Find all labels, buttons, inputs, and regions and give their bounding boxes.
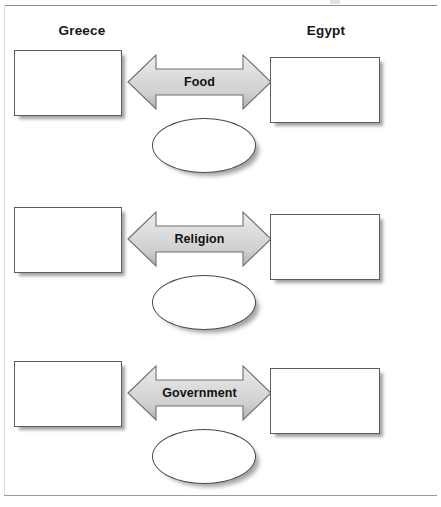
page-rule-top bbox=[4, 5, 437, 6]
answer-ellipse-shared[interactable] bbox=[152, 275, 256, 330]
page-rule-bottom bbox=[4, 495, 437, 496]
comparison-row: Religion bbox=[0, 201, 441, 331]
column-heading-greece: Greece bbox=[14, 23, 150, 38]
answer-box-greece[interactable] bbox=[14, 50, 122, 116]
double-arrow-icon bbox=[127, 363, 272, 423]
column-heading-egypt: Egypt bbox=[268, 23, 384, 38]
comparison-row: Government bbox=[0, 355, 441, 485]
double-arrow-icon bbox=[127, 52, 272, 112]
worksheet-page: Greece Egypt Food bbox=[0, 0, 441, 507]
comparison-row: Food bbox=[0, 44, 441, 174]
answer-box-egypt[interactable] bbox=[270, 57, 380, 123]
answer-box-greece[interactable] bbox=[14, 207, 122, 273]
answer-ellipse-shared[interactable] bbox=[152, 118, 256, 173]
answer-ellipse-shared[interactable] bbox=[152, 429, 256, 484]
topic-arrow: Food bbox=[127, 52, 272, 112]
answer-box-egypt[interactable] bbox=[270, 214, 380, 280]
answer-box-greece[interactable] bbox=[14, 361, 122, 427]
page-corner-mark bbox=[330, 0, 340, 4]
answer-box-egypt[interactable] bbox=[270, 368, 380, 434]
double-arrow-icon bbox=[127, 209, 272, 269]
topic-arrow: Religion bbox=[127, 209, 272, 269]
topic-arrow: Government bbox=[127, 363, 272, 423]
